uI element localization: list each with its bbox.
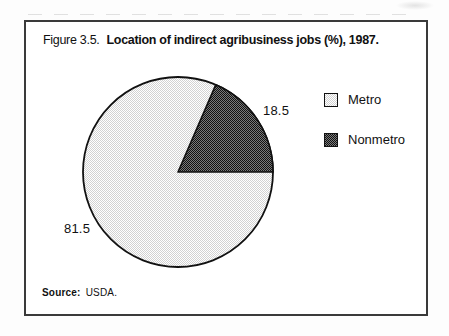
- legend-swatch-metro: [324, 93, 338, 107]
- scan-artifact-line: [28, 14, 413, 15]
- value-label-metro: 81.5: [64, 221, 90, 236]
- legend-item-nonmetro: Nonmetro: [324, 132, 405, 147]
- legend-swatch-nonmetro: [324, 133, 338, 147]
- value-label-nonmetro: 18.5: [263, 103, 289, 118]
- pie-chart: [26, 22, 426, 314]
- legend-label-nonmetro: Nonmetro: [348, 132, 405, 147]
- scanned-page: Figure 3.5.Location of indirect agribusi…: [0, 0, 449, 336]
- scan-artifact-smudge: [396, 1, 434, 10]
- source-note: Source:USDA.: [42, 287, 117, 298]
- source-label: Source:: [42, 287, 81, 298]
- figure-frame: Figure 3.5.Location of indirect agribusi…: [24, 20, 428, 316]
- legend-item-metro: Metro: [324, 92, 381, 107]
- legend-label-metro: Metro: [348, 92, 381, 107]
- source-value: USDA.: [86, 287, 118, 298]
